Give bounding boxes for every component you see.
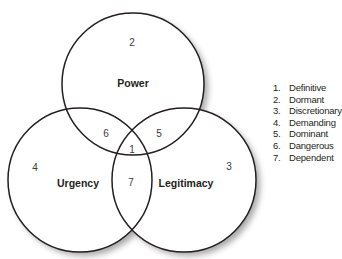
region-dominant: 5 xyxy=(156,128,162,139)
legend-number: 3. xyxy=(273,105,289,117)
label-legitimacy: Legitimacy xyxy=(159,177,214,189)
legend-label: Dominant xyxy=(289,128,328,140)
legend-item: 6.Dangerous xyxy=(273,140,342,152)
legend-item: 3.Discretionary xyxy=(273,105,342,117)
legend-number: 6. xyxy=(273,140,289,152)
region-definitive: 1 xyxy=(129,144,135,155)
region-discretionary: 3 xyxy=(226,161,232,172)
legend-item: 2.Dormant xyxy=(273,94,342,106)
region-dangerous: 6 xyxy=(103,128,109,139)
legend-label: Dangerous xyxy=(289,140,334,152)
legend-number: 4. xyxy=(273,117,289,129)
legend-number: 7. xyxy=(273,152,289,164)
legend: 1.Definitive 2.Dormant 3.Discretionary 4… xyxy=(273,82,342,163)
label-urgency: Urgency xyxy=(57,177,99,189)
legend-label: Discretionary xyxy=(289,105,342,117)
legend-label: Definitive xyxy=(289,82,326,94)
legend-number: 1. xyxy=(273,82,289,94)
legend-item: 1.Definitive xyxy=(273,82,342,94)
legend-label: Dormant xyxy=(289,94,324,106)
legend-item: 5.Dominant xyxy=(273,128,342,140)
legend-label: Demanding xyxy=(289,117,336,129)
legend-item: 7.Dependent xyxy=(273,152,342,164)
legend-number: 2. xyxy=(273,94,289,106)
legend-item: 4.Demanding xyxy=(273,117,342,129)
region-demanding: 4 xyxy=(32,162,38,173)
region-dormant: 2 xyxy=(129,37,135,48)
legend-number: 5. xyxy=(273,128,289,140)
label-power: Power xyxy=(117,77,149,89)
region-dependent: 7 xyxy=(128,177,134,188)
legend-label: Dependent xyxy=(289,152,334,164)
